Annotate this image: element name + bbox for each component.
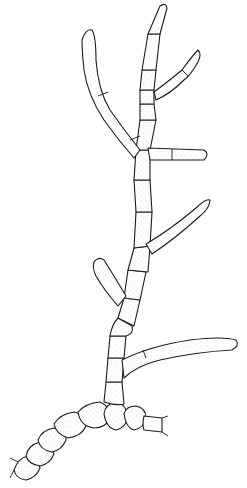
right-basal-branch [122, 338, 237, 378]
left-upper-branch [82, 30, 140, 158]
left-lower-branch [93, 258, 126, 306]
right-upper-branch [154, 50, 200, 100]
top-apex [148, 4, 167, 34]
right-middle-branch [148, 148, 207, 160]
right-lower-branch [146, 200, 210, 254]
algal-filament-illustration [0, 0, 247, 488]
prostrate-filament [10, 402, 168, 480]
